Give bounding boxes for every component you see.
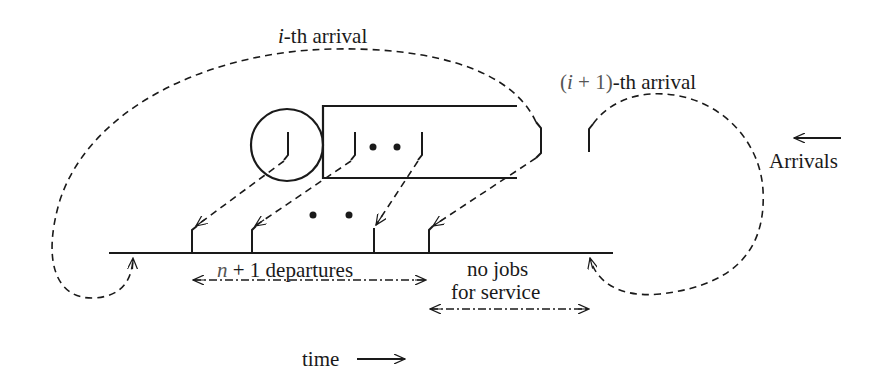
arrivals-label: Arrivals: [769, 149, 838, 173]
job-in-service-icon: [284, 132, 288, 160]
departure-ticks: [192, 226, 433, 253]
queue-diagram: i-th arrival (i + 1)-th arrival Arrivals…: [0, 0, 896, 386]
job-i-icon: [536, 122, 541, 158]
job-i-plus-1-icon: [589, 124, 593, 152]
time-label: time: [302, 347, 339, 371]
departures-label: n + 1 departures: [217, 258, 353, 282]
next-arrival-curve: [590, 94, 763, 295]
next-arrival-label: (i + 1)-th arrival: [560, 70, 696, 94]
job-queued-last-icon: [418, 132, 422, 160]
queue-ellipsis-icon: [370, 144, 401, 151]
no-jobs-label-line1: no jobs: [467, 257, 528, 281]
job-queued-1-icon: [351, 132, 355, 160]
departure-mapping-lines: [196, 158, 536, 226]
queue-buffer-box: [323, 106, 517, 178]
no-jobs-label-line2: for service: [451, 280, 540, 304]
i-th-arrival-label: i-th arrival: [278, 24, 367, 48]
departure-ellipsis-icon: [310, 212, 353, 219]
